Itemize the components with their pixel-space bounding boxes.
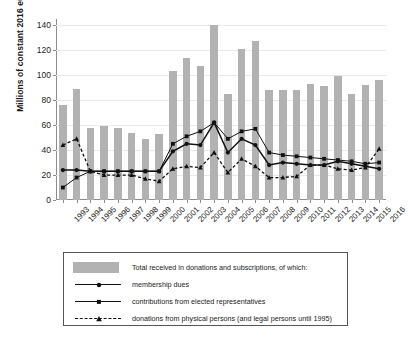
x-tick-label: 2016 xyxy=(388,205,407,224)
series-marker xyxy=(295,162,299,166)
series-marker xyxy=(240,137,244,141)
x-tick-mark xyxy=(324,200,325,203)
chart-legend: Total received in donations and subscrip… xyxy=(63,252,348,326)
x-tick-mark xyxy=(118,200,119,203)
series-marker xyxy=(171,142,175,146)
legend-item: contributions from elected representativ… xyxy=(73,294,338,309)
x-tick-mark xyxy=(187,200,188,203)
x-tick-mark xyxy=(104,200,105,203)
x-tick-mark xyxy=(242,200,243,203)
x-tick-mark xyxy=(283,200,284,203)
x-tick-mark xyxy=(77,200,78,203)
series-line xyxy=(63,123,379,172)
series-marker xyxy=(239,156,244,161)
x-tick-mark xyxy=(90,200,91,203)
series-marker xyxy=(74,136,79,141)
series-marker xyxy=(157,169,161,173)
series-marker xyxy=(377,161,381,165)
y-tick-label: 60 xyxy=(42,120,51,130)
y-tick-label: 80 xyxy=(42,95,51,105)
series-marker xyxy=(198,129,202,133)
legend-line-swatch xyxy=(73,279,125,291)
x-tick-mark xyxy=(338,200,339,203)
x-tick-mark xyxy=(379,200,380,203)
legend-label: donations from physical persons (and leg… xyxy=(132,314,332,323)
x-tick-mark xyxy=(310,200,311,203)
y-tick-label: 100 xyxy=(37,70,51,80)
chart-container: Millions of constant 2016 euros 02040608… xyxy=(0,0,408,240)
x-tick-mark xyxy=(159,200,160,203)
circle-marker-icon xyxy=(95,281,103,289)
series-marker xyxy=(226,150,230,154)
x-tick-mark xyxy=(365,200,366,203)
bar-swatch-icon xyxy=(73,262,119,273)
square-marker-icon xyxy=(95,298,103,306)
series-marker xyxy=(350,159,354,163)
x-tick-mark xyxy=(132,200,133,203)
x-tick-mark xyxy=(352,200,353,203)
series-marker xyxy=(61,186,65,190)
x-tick-mark xyxy=(145,200,146,203)
series-marker xyxy=(143,169,147,173)
series-marker xyxy=(212,150,217,155)
y-tick-label: 140 xyxy=(37,20,51,30)
series-marker xyxy=(253,143,257,147)
plot-area: 0204060801001201401993199419951996199719… xyxy=(56,19,386,200)
series-marker xyxy=(267,163,271,167)
series-marker xyxy=(226,137,230,141)
x-tick-mark xyxy=(200,200,201,203)
series-marker xyxy=(75,168,79,172)
series-marker xyxy=(281,153,285,157)
series-marker xyxy=(61,168,65,172)
line-series-layer xyxy=(56,19,386,200)
legend-item: Total received in donations and subscrip… xyxy=(73,260,338,275)
x-tick-mark xyxy=(255,200,256,203)
series-marker xyxy=(171,149,175,153)
legend-label: membership dues xyxy=(132,280,189,289)
y-tick-label: 20 xyxy=(42,170,51,180)
series-marker xyxy=(308,156,312,160)
legend-line-swatch xyxy=(73,296,125,308)
y-tick-label: 0 xyxy=(46,195,51,205)
x-tick-mark xyxy=(63,200,64,203)
legend-item: donations from physical persons (and leg… xyxy=(73,311,338,326)
series-marker xyxy=(267,151,271,155)
legend-label: Total received in donations and subscrip… xyxy=(132,263,307,272)
series-marker xyxy=(377,146,382,151)
x-tick-mark xyxy=(269,200,270,203)
legend-line-swatch xyxy=(73,313,125,325)
series-line xyxy=(63,139,379,181)
x-tick-mark xyxy=(173,200,174,203)
legend-item: membership dues xyxy=(73,277,338,292)
series-marker xyxy=(322,157,326,161)
series-marker xyxy=(377,167,381,171)
series-marker xyxy=(253,127,257,131)
y-axis-title: Millions of constant 2016 euros xyxy=(15,0,25,127)
series-marker xyxy=(336,158,340,162)
series-marker xyxy=(281,160,285,164)
series-marker xyxy=(157,179,162,184)
x-tick-mark xyxy=(214,200,215,203)
series-marker xyxy=(185,134,189,138)
y-tick-label: 120 xyxy=(37,45,51,55)
x-tick-mark xyxy=(228,200,229,203)
legend-bar-swatch xyxy=(73,262,125,274)
series-marker xyxy=(295,154,299,158)
series-marker xyxy=(75,176,79,180)
series-marker xyxy=(185,142,189,146)
series-marker xyxy=(240,129,244,133)
legend-label: contributions from elected representativ… xyxy=(132,297,265,306)
y-tick-mark xyxy=(53,200,56,201)
x-tick-mark xyxy=(297,200,298,203)
triangle-marker-icon xyxy=(95,315,103,323)
y-tick-label: 40 xyxy=(42,145,51,155)
series-line xyxy=(63,123,379,188)
series-marker xyxy=(212,121,216,125)
series-marker xyxy=(198,143,202,147)
